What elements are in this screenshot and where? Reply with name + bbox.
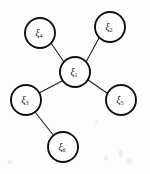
node-xi1[interactable]: ξ1 — [60, 57, 90, 87]
edge-xi1-xi3 — [39, 81, 62, 93]
node-xi6[interactable]: ξ6 — [48, 132, 78, 162]
node-subscript-xi2: 2 — [110, 27, 113, 33]
node-subscript-xi1: 1 — [75, 72, 78, 78]
node-subscript-xi6: 6 — [63, 147, 66, 153]
node-subscript-xi3: 3 — [26, 100, 29, 106]
node-group: ξ4 ξ2 ξ1 ξ3 — [11, 12, 136, 162]
node-xi4[interactable]: ξ4 — [25, 18, 55, 48]
edge-xi1-xi2 — [86, 38, 99, 62]
node-xi2[interactable]: ξ2 — [95, 12, 125, 42]
edge-xi1-xi5 — [88, 80, 107, 93]
node-subscript-xi5: 5 — [121, 100, 124, 106]
graph-diagram: ξ4 ξ2 ξ1 ξ3 — [0, 0, 150, 174]
edge-xi1-xi4 — [51, 43, 64, 62]
node-subscript-xi4: 4 — [40, 33, 43, 39]
edge-xi3-xi6 — [35, 112, 54, 136]
graph-canvas: ξ4 ξ2 ξ1 ξ3 — [0, 0, 150, 174]
node-xi3[interactable]: ξ3 — [11, 85, 41, 115]
node-xi5[interactable]: ξ5 — [106, 85, 136, 115]
